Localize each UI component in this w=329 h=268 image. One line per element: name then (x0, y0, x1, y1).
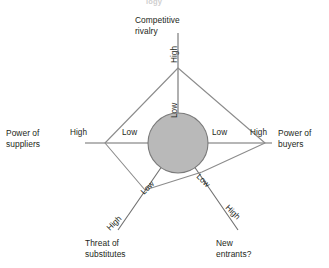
scale-high-power-of-suppliers: High (70, 128, 87, 139)
scale-low-competitive-rivalry: Low (170, 103, 181, 118)
axis-label-power-of-suppliers: Power of suppliers (6, 128, 40, 149)
scale-high-competitive-rivalry: High (170, 46, 181, 63)
axis-label-new-entrants: New entrants? (216, 238, 251, 259)
axis-label-competitive-rivalry: Competitive rivalry (135, 15, 180, 36)
scale-high-power-of-buyers: High (250, 128, 267, 139)
scale-low-power-of-buyers: Low (212, 128, 227, 139)
axis-label-power-of-buyers: Power of buyers (278, 128, 311, 149)
axis-label-threat-of-substitutes: Threat of substitutes (85, 238, 126, 259)
scale-low-power-of-suppliers: Low (122, 128, 137, 139)
radar-diagram-canvas: logy Competitive rivalry High Low Power … (0, 0, 329, 268)
center-circle (148, 113, 208, 173)
